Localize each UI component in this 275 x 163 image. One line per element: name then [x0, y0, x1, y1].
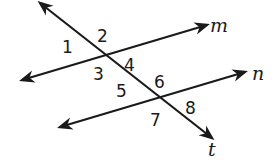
- angle-label-3: 3: [93, 64, 104, 84]
- angle-label-5: 5: [116, 81, 127, 101]
- line-label-n: n: [252, 62, 264, 84]
- line-label-t: t: [208, 138, 216, 160]
- angle-label-4: 4: [124, 55, 135, 75]
- angle-label-6: 6: [154, 72, 165, 92]
- angle-label-8: 8: [185, 98, 196, 118]
- diagram-canvas: mnt12345678: [0, 0, 275, 163]
- line-m: [22, 25, 207, 80]
- angle-label-7: 7: [150, 110, 161, 130]
- diagram: mnt12345678: [0, 0, 275, 163]
- angle-label-2: 2: [97, 26, 108, 46]
- line-label-m: m: [210, 14, 228, 36]
- angle-label-1: 1: [62, 37, 73, 57]
